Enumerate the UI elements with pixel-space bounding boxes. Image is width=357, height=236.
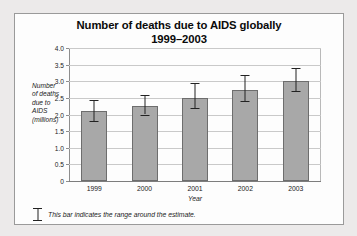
y-axis-tick-label: 3.0 [55, 78, 64, 85]
error-bar-cap-lower [291, 91, 300, 92]
error-bar-cap-upper [140, 95, 149, 96]
bar-group: 2001 [170, 48, 220, 181]
error-bar-cap-lower [190, 108, 199, 109]
error-bar-cap-lower [241, 101, 250, 102]
y-axis-tick-label: 1.5 [55, 128, 64, 135]
x-axis-tick-label: 2000 [137, 185, 152, 192]
bar-group: 2002 [220, 48, 270, 181]
chart-title-line-2: 1999–2003 [15, 33, 343, 47]
error-bar-icon [33, 207, 42, 222]
error-bar-cap-lower [140, 115, 149, 116]
bar [283, 81, 309, 181]
y-axis-tick [66, 181, 69, 182]
error-bar-cap-upper [190, 83, 199, 84]
y-axis-tick-label: 0 [60, 178, 64, 185]
error-bar-cap-upper [90, 100, 99, 101]
bar [132, 106, 158, 181]
y-axis-tick-label: 4.0 [55, 45, 64, 52]
chart-title: Number of deaths due to AIDS globally 19… [15, 19, 343, 46]
footnote: This bar indicates the range around the … [33, 207, 196, 222]
error-bar [245, 75, 246, 102]
y-axis-tick-label: 2.0 [55, 111, 64, 118]
error-bar-cap-upper [291, 68, 300, 69]
gridline [69, 181, 321, 182]
footnote-text: This bar indicates the range around the … [48, 211, 196, 218]
x-axis-tick-label: 2001 [187, 185, 202, 192]
y-axis-tick-label: 1.0 [55, 144, 64, 151]
x-axis-title: Year [69, 195, 321, 202]
bar-group: 2000 [119, 48, 169, 181]
error-bar [94, 100, 95, 122]
bar [182, 98, 208, 181]
x-axis-tick-label: 1999 [87, 185, 102, 192]
error-bar [144, 95, 145, 115]
chart-title-line-1: Number of deaths due to AIDS globally [77, 19, 282, 31]
error-bar [295, 68, 296, 91]
y-axis-tick-label: 3.5 [55, 61, 64, 68]
bar-group: 1999 [69, 48, 119, 181]
error-bar [194, 83, 195, 108]
y-axis-tick-label: 0.5 [55, 161, 64, 168]
y-axis-tick-label: 2.5 [55, 94, 64, 101]
x-axis-tick-label: 2003 [288, 185, 303, 192]
chart-figure: Number of deaths due to AIDS globally 19… [14, 13, 344, 225]
x-axis-tick-label: 2002 [238, 185, 253, 192]
error-bar-cap-lower [90, 121, 99, 122]
bar-group: 2003 [271, 48, 321, 181]
bar [232, 90, 258, 181]
error-bar-cap-upper [241, 75, 250, 76]
plot-area: 4.03.53.02.52.01.51.00.50 19992000200120… [69, 48, 321, 181]
